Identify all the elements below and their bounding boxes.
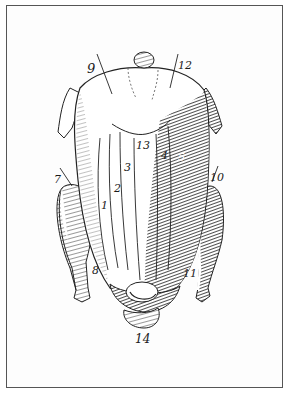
- label-4: 4: [161, 150, 168, 161]
- label-12: 12: [178, 60, 192, 71]
- label-10: 10: [210, 172, 224, 183]
- label-1: 1: [101, 200, 108, 211]
- label-14: 14: [135, 333, 150, 345]
- label-2: 2: [114, 183, 121, 194]
- label-11: 11: [183, 268, 197, 279]
- neck-stub: [134, 52, 154, 68]
- label-7: 7: [54, 174, 61, 185]
- label-3: 3: [124, 162, 131, 173]
- label-5: 5: [178, 152, 185, 163]
- label-13: 13: [136, 140, 150, 151]
- label-9: 9: [87, 62, 95, 75]
- label-8: 8: [92, 265, 99, 276]
